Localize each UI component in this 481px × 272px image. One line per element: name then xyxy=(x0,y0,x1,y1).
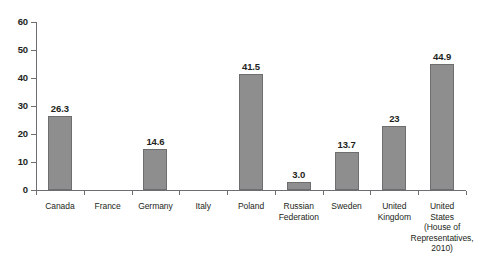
plot-area: 26.314.641.53.013.72344.9 xyxy=(36,22,466,190)
category-label-line: 2010) xyxy=(406,243,478,254)
y-axis-tick-label: 40 xyxy=(0,73,28,83)
bar-value-label: 3.0 xyxy=(274,170,324,180)
x-axis-line xyxy=(36,190,466,191)
y-axis-tick-label: 0 xyxy=(0,185,28,195)
y-axis-tick-label: 50 xyxy=(0,45,28,55)
category-label-line: United xyxy=(406,201,478,212)
bar xyxy=(430,64,454,190)
category-label-line: States xyxy=(406,212,478,223)
clipped-header-text xyxy=(0,0,481,6)
bar xyxy=(382,126,406,190)
bar-value-label: 14.6 xyxy=(130,137,180,147)
x-axis-tick xyxy=(323,191,324,195)
bar-chart: 0102030405060 26.314.641.53.013.72344.9 … xyxy=(0,0,481,272)
bar xyxy=(287,182,311,190)
bar xyxy=(143,149,167,190)
x-axis-tick xyxy=(227,191,228,195)
bar-value-label: 26.3 xyxy=(35,104,85,114)
bar-value-label: 41.5 xyxy=(226,62,276,72)
y-axis-tick-label: 20 xyxy=(0,129,28,139)
category-label-line: (House of xyxy=(406,222,478,233)
x-axis-tick xyxy=(370,191,371,195)
x-axis-category-label: UnitedStates(House ofRepresentatives,201… xyxy=(406,201,478,254)
x-axis-tick xyxy=(132,191,133,195)
y-axis-tick-label: 60 xyxy=(0,17,28,27)
y-axis-tick-label: 30 xyxy=(0,101,28,111)
x-axis-tick xyxy=(36,191,37,195)
category-label-line: Federation xyxy=(263,212,335,223)
x-axis-tick xyxy=(275,191,276,195)
bar-value-label: 13.7 xyxy=(322,140,372,150)
bar-value-label: 23 xyxy=(369,114,419,124)
bar-value-label: 44.9 xyxy=(417,52,467,62)
category-label-line: Representatives, xyxy=(406,233,478,244)
x-axis-tick xyxy=(418,191,419,195)
x-axis-tick xyxy=(466,191,467,195)
bar xyxy=(48,116,72,190)
bar xyxy=(335,152,359,190)
bar xyxy=(239,74,263,190)
x-axis-tick xyxy=(84,191,85,195)
y-axis-tick-label: 10 xyxy=(0,157,28,167)
x-axis-tick xyxy=(179,191,180,195)
